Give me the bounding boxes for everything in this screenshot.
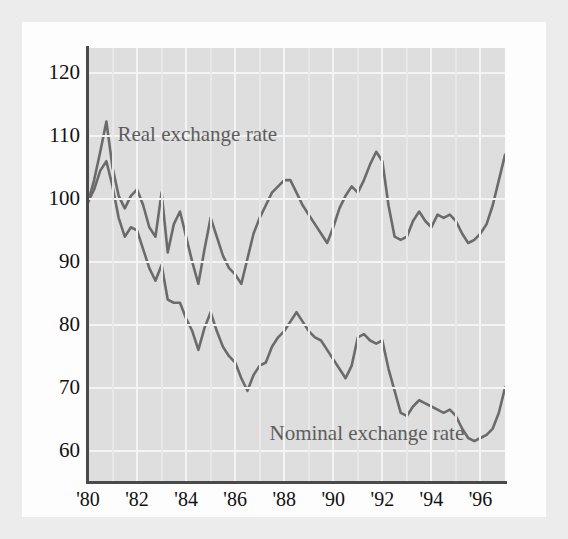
y-tick-label-70: 70 — [24, 377, 80, 398]
series-line-nominal — [88, 161, 505, 441]
y-tick-label-110: 110 — [24, 125, 80, 146]
gridline-vertical-1992 — [381, 48, 383, 482]
gridline-vertical-1996 — [479, 48, 481, 482]
gridline-horizontal-70 — [88, 387, 505, 389]
x-tick-label-y96: '96 — [450, 489, 510, 509]
gridline-vertical-1985 — [210, 48, 212, 482]
series-label-nominal-exchange-rate: Nominal exchange rate — [270, 423, 465, 444]
y-tick-label-90: 90 — [24, 251, 80, 272]
y-tick-label-100: 100 — [24, 188, 80, 209]
gridline-vertical-1983 — [161, 48, 163, 482]
gridline-vertical-1982 — [136, 48, 138, 482]
gridline-vertical-1991 — [357, 48, 359, 482]
gridline-horizontal-100 — [88, 198, 505, 200]
plot-area — [88, 48, 505, 482]
exchange-rate-chart: 12011010090807060 '80'82'84'86'88'90'92'… — [0, 0, 568, 539]
gridline-vertical-1981 — [112, 48, 114, 482]
gridline-vertical-1995 — [455, 48, 457, 482]
gridline-vertical-1986 — [234, 48, 236, 482]
series-label-real-exchange-rate: Real exchange rate — [117, 124, 277, 145]
y-axis-tick-labels: 12011010090807060 — [18, 0, 80, 539]
y-axis-line — [86, 46, 89, 484]
gridline-horizontal-80 — [88, 324, 505, 326]
gridline-horizontal-90 — [88, 261, 505, 263]
figure-page: 12011010090807060 '80'82'84'86'88'90'92'… — [0, 0, 568, 539]
gridline-vertical-1990 — [332, 48, 334, 482]
gridline-vertical-1994 — [430, 48, 432, 482]
x-axis-line — [86, 481, 507, 484]
gridline-vertical-1988 — [283, 48, 285, 482]
y-tick-label-80: 80 — [24, 314, 80, 335]
gridline-vertical-1987 — [259, 48, 261, 482]
y-tick-label-60: 60 — [24, 440, 80, 461]
gridline-horizontal-120 — [88, 72, 505, 74]
data-series-layer — [88, 48, 505, 482]
gridline-vertical-1984 — [185, 48, 187, 482]
y-tick-label-120: 120 — [24, 62, 80, 83]
gridline-vertical-1989 — [308, 48, 310, 482]
gridline-vertical-1993 — [406, 48, 408, 482]
gridline-horizontal-60 — [88, 450, 505, 452]
